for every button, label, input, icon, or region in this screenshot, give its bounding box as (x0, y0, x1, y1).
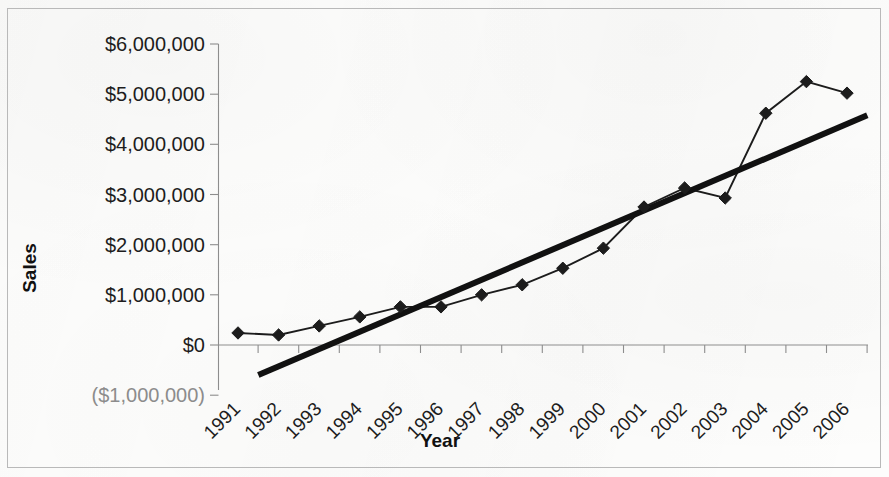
data-point-marker (841, 87, 853, 99)
y-tick-label: $0 (183, 334, 205, 356)
x-tick-label: 1994 (321, 398, 366, 443)
data-point-marker (475, 289, 487, 301)
linear-trendline (258, 115, 867, 375)
x-axis-ticks (258, 345, 867, 353)
data-point-marker (719, 192, 731, 204)
y-tick-label: $3,000,000 (105, 184, 205, 206)
x-tick-label: 2006 (809, 398, 854, 443)
y-tick-label-negative: ($1,000,000) (92, 384, 205, 406)
y-axis-title: Sales (19, 243, 40, 293)
y-tick-label: $2,000,000 (105, 234, 205, 256)
x-tick-label: 2003 (687, 398, 732, 443)
x-tick-label: 2005 (768, 398, 813, 443)
sales-data-point-markers (232, 75, 853, 341)
y-tick-label: $6,000,000 (105, 33, 205, 55)
x-axis-tick-labels: 1991 1992 1993 1994 1995 1996 1997 1998 … (200, 398, 854, 443)
x-tick-label: 1995 (362, 398, 407, 443)
chart-page: $6,000,000 $5,000,000 $4,000,000 $3,000,… (0, 0, 889, 477)
data-point-marker (435, 301, 447, 313)
y-axis-ticks (210, 44, 219, 395)
x-tick-label: 1999 (524, 398, 569, 443)
x-tick-label: 2004 (727, 398, 772, 443)
x-tick-label: 2001 (606, 398, 651, 443)
x-tick-label: 1998 (484, 398, 529, 443)
x-tick-label: 1991 (200, 398, 245, 443)
y-tick-label: $5,000,000 (105, 83, 205, 105)
sales-by-year-line-chart: $6,000,000 $5,000,000 $4,000,000 $3,000,… (0, 0, 889, 477)
data-point-marker (313, 320, 325, 332)
x-tick-label: 1993 (281, 398, 326, 443)
data-point-marker (232, 327, 244, 339)
sales-series-line (238, 82, 847, 335)
y-tick-label: $4,000,000 (105, 133, 205, 155)
y-tick-label: $1,000,000 (105, 284, 205, 306)
y-axis-tick-labels: $6,000,000 $5,000,000 $4,000,000 $3,000,… (92, 33, 205, 406)
x-tick-label: 2000 (565, 398, 610, 443)
data-point-marker (516, 279, 528, 291)
x-tick-label: 1992 (240, 398, 285, 443)
data-point-marker (272, 329, 284, 341)
data-point-marker (557, 262, 569, 274)
x-tick-label: 2002 (646, 398, 691, 443)
x-axis-title: Year (420, 430, 461, 451)
data-point-marker (354, 311, 366, 323)
